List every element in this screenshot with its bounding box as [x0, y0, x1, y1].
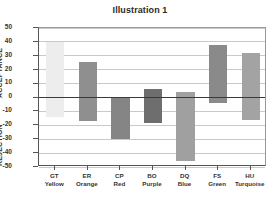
gridline	[39, 125, 265, 126]
zero-baseline	[39, 97, 265, 99]
y-tick-label: -40	[0, 149, 12, 156]
x-label-colour: Turquoise	[228, 180, 272, 188]
x-label-code: HU	[228, 172, 272, 180]
bar-dq	[176, 92, 194, 161]
y-tick-label: 0	[0, 93, 12, 100]
gridline	[39, 55, 265, 56]
x-tick-mark	[87, 166, 88, 170]
y-tick-mark	[33, 55, 38, 56]
x-axis-label-hu: HUTurquoise	[228, 172, 272, 189]
x-tick-mark	[152, 166, 153, 170]
gridline	[39, 69, 265, 70]
bar-gt	[46, 42, 64, 117]
y-tick-mark	[33, 138, 38, 139]
x-tick-mark	[54, 166, 55, 170]
y-tick-label: 30	[0, 52, 12, 59]
x-tick-mark	[119, 166, 120, 170]
rejection-axis-caption: REJECTION	[0, 124, 3, 166]
y-tick-mark	[33, 124, 38, 125]
y-tick-label: -20	[0, 121, 12, 128]
y-tick-mark	[33, 166, 38, 167]
gridline	[39, 153, 265, 154]
y-tick-label: -10	[0, 107, 12, 114]
gridline	[39, 41, 265, 42]
y-tick-label: 50	[0, 24, 12, 31]
x-tick-mark	[185, 166, 186, 170]
y-tick-mark	[33, 152, 38, 153]
y-tick-mark	[33, 110, 38, 111]
chart-figure: Illustration 1 ACCEPTANCE REJECTION 5040…	[0, 0, 280, 204]
bar-er	[79, 62, 97, 121]
y-tick-mark	[33, 97, 38, 98]
x-tick-mark	[217, 166, 218, 170]
bar-bo	[144, 89, 162, 123]
y-tick-label: 40	[0, 38, 12, 45]
y-tick-mark	[33, 27, 38, 28]
bar-cp	[111, 98, 129, 140]
y-tick-label: -50	[0, 163, 12, 170]
y-tick-mark	[33, 69, 38, 70]
gridline	[39, 28, 265, 29]
y-tick-label: 10	[0, 79, 12, 86]
plot-area	[38, 27, 266, 166]
gridline	[39, 139, 265, 140]
x-tick-mark	[250, 166, 251, 170]
y-tick-label: -30	[0, 135, 12, 142]
bar-hu	[242, 53, 260, 120]
gridline	[39, 83, 265, 84]
bar-fs	[209, 45, 227, 103]
y-tick-mark	[33, 41, 38, 42]
y-tick-label: 20	[0, 66, 12, 73]
chart-title: Illustration 1	[0, 5, 280, 15]
y-tick-mark	[33, 83, 38, 84]
